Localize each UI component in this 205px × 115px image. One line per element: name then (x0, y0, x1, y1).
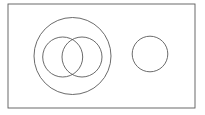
inner-left-set-circle (43, 37, 83, 77)
venn-diagram (0, 0, 205, 115)
universe-rectangle (8, 4, 195, 108)
venn-diagram-canvas (0, 0, 205, 115)
outer-set-circle (34, 18, 111, 95)
disjoint-set-circle (132, 36, 168, 72)
inner-right-set-circle (62, 37, 102, 77)
